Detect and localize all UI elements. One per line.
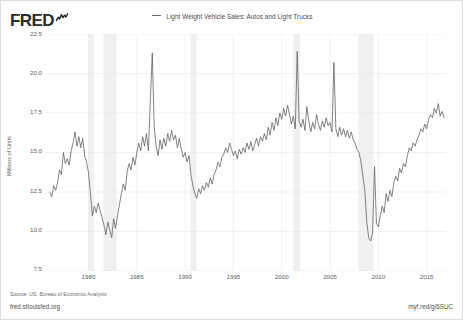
source-note: Source: US. Bureau of Economic Analysis [10,291,107,297]
x-tick-label: 1980 [72,273,106,280]
x-tick-label: 1990 [168,273,202,280]
x-tick-label: 2005 [313,273,347,280]
y-tick-label: 7.5 [16,266,42,272]
y-tick-label: 10.0 [16,227,42,233]
line-dash-icon [152,15,161,16]
legend-item-label: Light Weight Vehicle Sales: Autos and Li… [166,13,312,20]
x-tick-label: 2010 [361,273,395,280]
x-tick-label: 1995 [216,273,250,280]
y-tick-label: 22.5 [16,31,42,37]
y-tick-label: 12.5 [16,188,42,194]
y-tick-label: 17.5 [16,109,42,115]
y-axis-tick-labels: 22.5 20.0 17.5 15.0 12.5 10.0 7.5 [12,34,42,271]
x-axis-tick-labels: 1980 1985 1990 1995 2000 2005 2010 2015 [46,273,446,285]
chart-legend: Light Weight Vehicle Sales: Autos and Li… [1,12,463,20]
x-tick-label: 2000 [265,273,299,280]
fred-chart-figure: FRED Light Weight Vehicle Sales: Autos a… [0,0,463,320]
y-tick-label: 20.0 [16,70,42,76]
series-plot [46,34,446,271]
short-url-link[interactable]: myf.red/g/6SUC [408,303,453,310]
x-tick-label: 2015 [410,273,444,280]
plot-area [46,34,446,271]
x-tick-label: 1985 [120,273,154,280]
y-tick-label: 15.0 [16,148,42,154]
fred-url-link[interactable]: fred.stlouisfed.org [10,303,60,310]
